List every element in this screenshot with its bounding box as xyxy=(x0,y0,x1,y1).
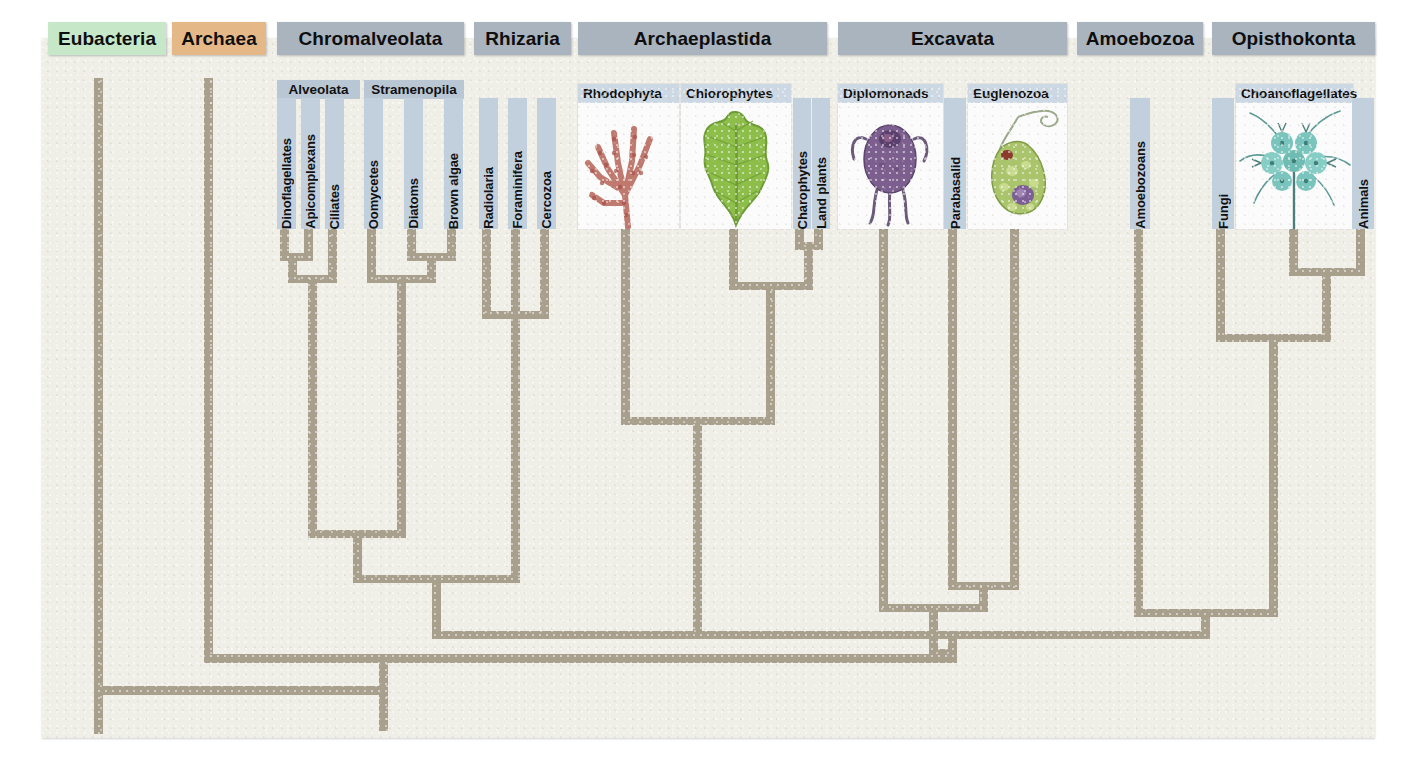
taxon-strip-amoebozoans: Amoebozoans xyxy=(1130,98,1150,229)
branch-ciliates xyxy=(328,229,337,279)
branch-cercozoa xyxy=(540,229,549,319)
taxon-strip-foraminifera: Foraminifera xyxy=(508,98,527,229)
branch-oomycetes xyxy=(367,229,376,279)
photo-caption: Diplomonads xyxy=(838,84,943,103)
branch-rhizaria-stem xyxy=(511,311,520,583)
node-eukaryotes xyxy=(204,654,957,663)
branch-eubacteria xyxy=(94,78,103,734)
taxon-strip-dinoflagellates: Dinoflagellates xyxy=(277,98,296,229)
taxon-label: Diatoms xyxy=(406,175,421,229)
branch-archaeplastida-stem xyxy=(693,417,702,639)
taxon-strip-apicomplexans: Apicomplexans xyxy=(301,98,320,229)
photo-caption: Chlorophytes xyxy=(681,84,791,103)
taxon-strip-animals: Animals xyxy=(1352,98,1374,229)
taxon-strip-fungi: Fungi xyxy=(1212,98,1234,229)
clade-banner-eubacteria: Eubacteria xyxy=(48,22,166,55)
red-alga-illustration xyxy=(578,103,679,229)
phylogenetic-tree-figure: Rhodophyta xyxy=(0,0,1417,769)
taxon-label: Dinoflagellates xyxy=(279,135,294,229)
branch-fungi xyxy=(1216,229,1225,342)
taxon-label: Parabasalid xyxy=(948,154,963,229)
taxon-label: Fungi xyxy=(1216,191,1231,229)
photo-caption: Rhodophyta xyxy=(578,84,679,103)
taxon-strip-brown-algae: Brown algae xyxy=(444,98,463,229)
clade-banner-chromalveolata: Chromalveolata xyxy=(277,22,464,55)
clade-banner-archaeplastida: Archaeplastida xyxy=(578,22,827,55)
euglena-illustration xyxy=(968,103,1067,229)
subgroup-banner-stramenopila: Stramenopila xyxy=(364,80,464,99)
taxon-label: Foraminifera xyxy=(510,148,525,229)
node-bikonts xyxy=(432,631,702,639)
taxon-strip-cercozoa: Cercozoa xyxy=(537,98,556,229)
clade-banner-opisthokonta: Opisthokonta xyxy=(1212,22,1375,55)
green-alga-leaf-illustration xyxy=(681,103,791,229)
branch-radiolaria xyxy=(482,229,491,319)
clade-banner-archaea: Archaea xyxy=(172,22,266,55)
photo-panel-euglenozoa: Euglenozoa xyxy=(968,84,1067,229)
taxon-label: Ciliates xyxy=(327,181,342,229)
branch-stramenopila-stem xyxy=(397,275,406,534)
branch-diplomonads xyxy=(879,229,888,612)
branch-amoebozoans xyxy=(1134,229,1143,617)
clade-banner-excavata: Excavata xyxy=(838,22,1067,55)
taxon-label: Land plants xyxy=(814,154,829,229)
branch-foraminifera xyxy=(511,229,520,319)
taxon-label: Cercozoa xyxy=(539,168,554,229)
photo-panel-choanoflagellates: Choanoflagellates xyxy=(1236,84,1353,229)
taxon-label: Amoebozoans xyxy=(1133,138,1148,229)
taxon-label: Oomycetes xyxy=(366,157,381,229)
taxon-label: Brown algae xyxy=(446,150,461,229)
giardia-illustration xyxy=(838,103,943,229)
branch-chlorophytes xyxy=(729,229,738,290)
branch-root-stem xyxy=(379,686,388,731)
taxon-strip-land-plants: Land plants xyxy=(812,98,830,229)
branch-euglenozoa xyxy=(1010,229,1019,590)
branch-green-plants-stem xyxy=(766,282,775,425)
taxon-strip-oomycetes: Oomycetes xyxy=(364,98,383,229)
branch-parabasalid-euglenozoa-stem xyxy=(979,582,988,604)
branch-choano-animals-stem xyxy=(1322,268,1331,342)
taxon-strip-charophytes: Charophytes xyxy=(793,98,811,229)
clade-banner-amoebozoa: Amoebozoa xyxy=(1077,22,1203,55)
photo-caption: Choanoflagellates xyxy=(1236,84,1353,103)
taxon-strip-diatoms: Diatoms xyxy=(404,98,423,229)
taxon-strip-radiolaria: Radiolaria xyxy=(479,98,498,229)
node-root xyxy=(94,686,388,695)
taxon-label: Radiolaria xyxy=(481,164,496,229)
clade-banner-rhizaria: Rhizaria xyxy=(474,22,571,55)
branch-chromalveolata-rhizaria-stem xyxy=(432,575,441,639)
choanoflagellate-colony-illustration xyxy=(1236,103,1353,229)
taxon-label: Animals xyxy=(1356,176,1371,229)
branch-opisthokonta-stem xyxy=(1269,334,1278,617)
taxon-label: Charophytes xyxy=(795,148,810,229)
photo-panel-diplomonads: Diplomonads xyxy=(838,84,943,229)
taxon-strip-ciliates: Ciliates xyxy=(325,98,344,229)
branch-alveolata-stem xyxy=(308,275,317,534)
taxon-label: Apicomplexans xyxy=(303,131,318,229)
photo-panel-chlorophytes: Chlorophytes xyxy=(681,84,791,229)
branch-archaea xyxy=(204,78,213,662)
photo-caption: Euglenozoa xyxy=(968,84,1067,103)
photo-panel-rhodophyta: Rhodophyta xyxy=(578,84,679,229)
branch-parabasalid xyxy=(948,229,957,590)
taxon-strip-parabasalid: Parabasalid xyxy=(944,98,966,229)
subgroup-banner-alveolata: Alveolata xyxy=(277,80,360,99)
tree-canvas: Rhodophyta xyxy=(42,38,1375,738)
branch-rhodophyta xyxy=(621,229,630,425)
